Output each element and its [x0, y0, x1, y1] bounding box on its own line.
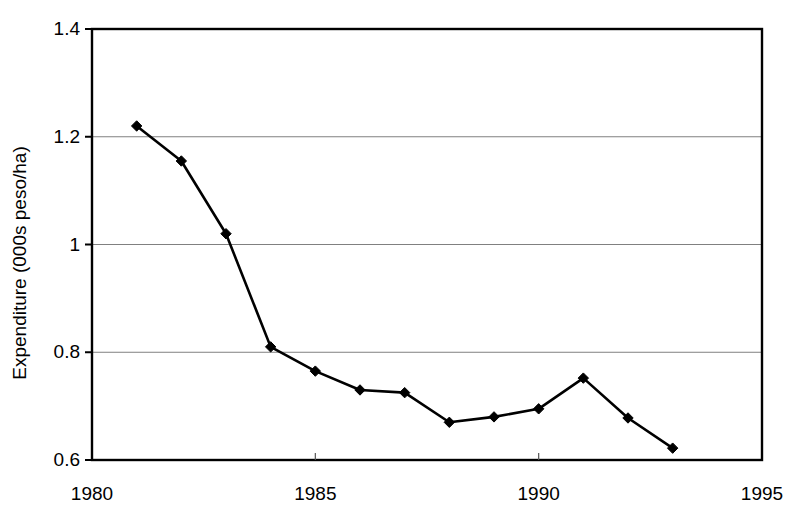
data-line — [137, 126, 673, 448]
data-markers — [131, 121, 677, 454]
line-chart: Expenditure (000s peso/ha) 0.60.811.21.4… — [0, 0, 800, 526]
data-point-marker — [489, 412, 499, 422]
data-point-marker — [265, 342, 275, 352]
data-point-marker — [310, 366, 320, 376]
gridlines — [92, 137, 762, 353]
plot-area — [0, 0, 800, 526]
data-point-marker — [355, 385, 365, 395]
